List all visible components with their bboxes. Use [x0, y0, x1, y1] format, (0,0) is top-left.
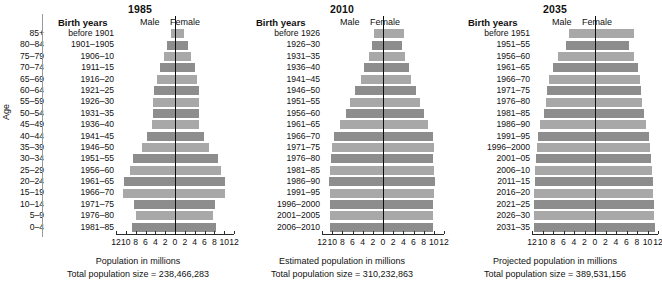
birth-years-label: 1976–80 — [242, 153, 322, 164]
bar-female — [383, 154, 433, 163]
bar-female — [175, 166, 221, 175]
x-axis-tick — [126, 231, 127, 235]
x-axis-caption: Estimated population in millions — [236, 256, 448, 266]
bar-male — [331, 154, 383, 163]
bar-male — [153, 98, 175, 107]
total-population-caption: Total population size = 238,466,283 — [0, 269, 236, 279]
panel-title: 1985 — [0, 3, 236, 15]
bar-male — [330, 166, 383, 175]
pyramid-row: 1901–1905 — [44, 39, 236, 50]
header-male: Male — [340, 17, 360, 27]
bar-male — [330, 200, 383, 209]
birth-years-label: 1926–30 — [242, 39, 322, 50]
pyramid-row: 1906–10 — [44, 51, 236, 62]
x-axis-tick — [155, 231, 156, 235]
birth-years-label: 1941–45 — [44, 131, 116, 142]
pyramid-row: 1951–55 — [242, 96, 446, 107]
x-axis-tick — [658, 231, 659, 235]
population-pyramid-figure: Age 85+80–8475–7970–7465–6960–6455–5950–… — [0, 0, 662, 291]
x-axis-tick — [444, 231, 445, 235]
bar-female — [383, 200, 433, 209]
birth-years-label: 1951–55 — [454, 39, 532, 50]
birth-years-label: 1916–20 — [44, 74, 116, 85]
birth-years-label: 1901–1905 — [44, 39, 116, 50]
panel-title: 2035 — [448, 3, 662, 15]
bar-female — [595, 75, 640, 84]
bar-female — [595, 52, 634, 61]
birth-years-label: 1966–70 — [454, 74, 532, 85]
pyramid-row: 1966–70 — [242, 131, 446, 142]
plot-area: before 19261926–301931–351936–401941–451… — [242, 28, 446, 233]
birth-years-label: 2006–2010 — [242, 222, 322, 233]
birth-years-label: 2006–10 — [454, 165, 532, 176]
birth-years-label: 2001–2005 — [242, 210, 322, 221]
pyramid-row: 1971–75 — [454, 85, 660, 96]
x-axis-tick — [214, 231, 215, 235]
pyramid-row: 1986–90 — [242, 176, 446, 187]
pyramid-row: 1911–15 — [44, 62, 236, 73]
plot-area: before 19011901–19051906–101911–151916–2… — [44, 28, 236, 233]
pyramid-row: 1981–85 — [454, 108, 660, 119]
birth-years-label: 1966–70 — [44, 187, 116, 198]
birth-years-label: 1946–50 — [242, 85, 322, 96]
panel-1985: 1985 Birth years Male Female before 1901… — [0, 0, 236, 291]
panel-title: 2010 — [236, 3, 448, 15]
pyramid-row: 1946–50 — [44, 142, 236, 153]
birth-years-label: 1996–2000 — [454, 142, 532, 153]
pyramid-row: 1926–30 — [242, 39, 446, 50]
bar-male — [534, 189, 595, 198]
birth-years-label: before 1926 — [242, 28, 322, 39]
total-population-caption: Total population size = 310,232,863 — [236, 269, 448, 279]
x-axis-tick — [373, 231, 374, 235]
pyramid-row: 1986–90 — [454, 119, 660, 130]
bar-female — [175, 75, 197, 84]
bar-male — [549, 75, 595, 84]
bar-female — [175, 86, 199, 95]
birth-years-label: 1931–35 — [242, 51, 322, 62]
bar-female — [595, 109, 644, 118]
pyramid-row: 1951–55 — [44, 153, 236, 164]
birth-years-label: 2001–05 — [454, 153, 532, 164]
bar-male — [535, 166, 595, 175]
bar-male — [329, 177, 383, 186]
pyramid-row: 1961–65 — [454, 62, 660, 73]
bar-male — [164, 52, 175, 61]
bar-male — [153, 109, 175, 118]
x-axis-tick — [648, 231, 649, 235]
x-axis-tick — [332, 231, 333, 235]
pyramid-row: before 1926 — [242, 28, 446, 39]
x-axis-tick — [414, 231, 415, 235]
bar-male — [547, 86, 595, 95]
birth-years-label: 1986–90 — [242, 176, 322, 187]
bar-female — [595, 189, 653, 198]
bar-female — [383, 223, 433, 232]
birth-years-label: 2021–25 — [454, 199, 532, 210]
birth-years-label: 1996–2000 — [242, 199, 322, 210]
pyramid-row: 1971–75 — [242, 142, 446, 153]
birth-years-label: 1986–90 — [454, 119, 532, 130]
bar-male — [535, 177, 595, 186]
bar-male — [142, 143, 175, 152]
bar-female — [383, 211, 433, 220]
zero-centerline — [383, 16, 384, 235]
bar-male — [132, 223, 175, 232]
bar-female — [383, 132, 433, 141]
bar-male — [154, 86, 175, 95]
bar-female — [383, 63, 409, 72]
bar-male — [330, 223, 383, 232]
pyramid-row: 1961–65 — [44, 176, 236, 187]
pyramid-row: 1936–40 — [44, 119, 236, 130]
bar-male — [157, 75, 175, 84]
pyramid-row: before 1901 — [44, 28, 236, 39]
x-axis-tick — [627, 231, 628, 235]
panel-2035: 2035 Birth years Male Female before 1951… — [448, 0, 662, 291]
birth-years-label: 1926–30 — [44, 96, 116, 107]
pyramid-row: 1921–25 — [44, 85, 236, 96]
bar-female — [383, 177, 435, 186]
bar-female — [175, 109, 199, 118]
pyramid-row: 2021–25 — [454, 199, 660, 210]
pyramid-row: 1916–20 — [44, 74, 236, 85]
pyramid-row: 1966–70 — [454, 74, 660, 85]
x-axis-tick — [234, 231, 235, 235]
bar-male — [133, 154, 175, 163]
